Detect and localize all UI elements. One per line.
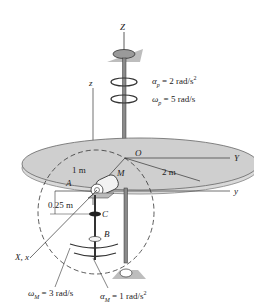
label-omega-M: ωM = 3 rad/s xyxy=(28,288,73,302)
mechanism-drawing xyxy=(0,0,254,305)
label-C: C xyxy=(102,209,108,219)
label-B: B xyxy=(104,229,110,239)
rotating-disk xyxy=(22,138,254,190)
base-mount xyxy=(120,269,132,277)
label-arm-radius: 1 m xyxy=(72,165,86,175)
label-omega-p: ωp = 5 rad/s xyxy=(152,94,195,108)
point-C-disk xyxy=(89,212,101,217)
label-Y: Y xyxy=(234,153,239,163)
label-A: A xyxy=(66,178,72,188)
label-M: M xyxy=(117,168,125,178)
point-B-disk xyxy=(89,237,101,242)
label-Xx: X, x xyxy=(15,252,29,262)
top-mount-cap xyxy=(113,50,135,59)
diagram-canvas: Z z Y y X, x O M A B C 2 m 1 m 0.25 m αp… xyxy=(0,0,254,305)
label-O: O xyxy=(135,148,142,158)
lower-shaft xyxy=(124,188,128,263)
label-y: y xyxy=(234,186,238,196)
label-disk-radius: 2 m xyxy=(162,167,176,177)
label-alpha-p: αp = 2 rad/s2 xyxy=(152,73,197,90)
label-offset: 0.25 m xyxy=(48,200,73,210)
label-z: z xyxy=(89,78,93,88)
label-alpha-M: αM = 1 rad/s2 xyxy=(100,288,147,305)
label-Z: Z xyxy=(120,22,125,32)
